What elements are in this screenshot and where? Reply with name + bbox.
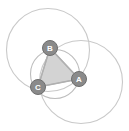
node-c-circle[interactable] bbox=[31, 80, 46, 95]
node-a-circle[interactable] bbox=[72, 72, 87, 87]
diagram-canvas: A B C bbox=[0, 0, 129, 131]
node-c[interactable]: C bbox=[31, 80, 46, 95]
geometry-diagram: A B C bbox=[0, 0, 129, 131]
node-b[interactable]: B bbox=[43, 41, 58, 56]
node-a[interactable]: A bbox=[72, 72, 87, 87]
node-b-circle[interactable] bbox=[43, 41, 58, 56]
